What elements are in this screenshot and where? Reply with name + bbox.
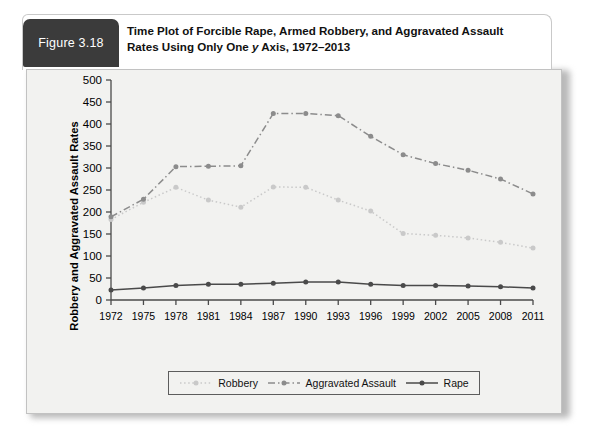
y-tick-label: 100 [83, 250, 102, 262]
x-tick-label: 1996 [359, 310, 383, 322]
legend-item-rape[interactable]: Rape [405, 377, 469, 389]
data-point [466, 168, 471, 173]
data-point [238, 205, 243, 210]
data-point [498, 177, 503, 182]
data-point [271, 111, 276, 116]
data-point [109, 214, 114, 219]
data-point [531, 286, 536, 291]
legend-item-aggravated-assault[interactable]: Aggravated Assault [267, 377, 396, 389]
legend-swatch-solid-icon [405, 378, 439, 388]
legend-item-robbery[interactable]: Robbery [179, 377, 258, 389]
data-point [303, 111, 308, 116]
data-point [401, 283, 406, 288]
y-tick-label: 300 [83, 162, 102, 174]
chart-legend: RobberyAggravated AssaultRape [168, 371, 480, 395]
data-point [141, 197, 146, 202]
data-point [206, 198, 211, 203]
figure-caption-line1: Time Plot of Forcible Rape, Armed Robber… [127, 24, 503, 37]
legend-label: Robbery [218, 377, 258, 389]
data-point [303, 185, 308, 190]
legend-label: Rape [444, 377, 469, 389]
figure-number-tab: Figure 3.18 [23, 19, 119, 67]
data-point [368, 209, 373, 214]
y-tick-label: 450 [83, 96, 102, 108]
x-tick-label: 1984 [229, 310, 253, 322]
y-axis-ticks: 050100150200250300350400450500 [83, 74, 111, 306]
data-point [498, 284, 503, 289]
data-point [368, 134, 373, 139]
x-tick-label: 1981 [197, 310, 221, 322]
y-tick-label: 400 [83, 118, 102, 130]
legend-swatch-dash-dot-icon [267, 378, 301, 388]
figure-caption-line2-post: Axis, 1972–2013 [258, 40, 350, 53]
x-axis-ticks: 1972197519781981198419871990199319961999… [99, 300, 544, 322]
x-tick-label: 2008 [489, 310, 513, 322]
data-point [466, 235, 471, 240]
y-tick-label: 200 [83, 206, 102, 218]
data-point [433, 233, 438, 238]
legend-swatch-dotted-icon [179, 378, 213, 388]
data-point [401, 231, 406, 236]
data-point [433, 161, 438, 166]
data-point [336, 113, 341, 118]
data-point [271, 184, 276, 189]
data-point [498, 240, 503, 245]
figure-card: Figure 3.18 Time Plot of Forcible Rape, … [22, 14, 570, 418]
data-point [173, 164, 178, 169]
x-tick-label: 1987 [262, 310, 286, 322]
data-point [141, 286, 146, 291]
data-point [336, 279, 341, 284]
y-tick-label: 50 [89, 272, 102, 284]
data-point [173, 283, 178, 288]
x-tick-label: 2002 [424, 310, 448, 322]
data-point [238, 163, 243, 168]
y-tick-label: 500 [83, 74, 102, 86]
data-point [531, 191, 536, 196]
data-point [368, 282, 373, 287]
axes-group [111, 80, 533, 300]
series-group [109, 111, 536, 292]
data-point [433, 283, 438, 288]
data-point [531, 246, 536, 251]
x-tick-label: 2011 [522, 310, 545, 322]
chart-canvas: 050100150200250300350400450500 197219751… [27, 70, 563, 415]
data-point [173, 185, 178, 190]
x-tick-label: 2005 [456, 310, 480, 322]
data-point [109, 287, 114, 292]
x-tick-label: 1999 [391, 310, 415, 322]
data-point [238, 282, 243, 287]
data-point [303, 279, 308, 284]
data-point [466, 283, 471, 288]
y-tick-label: 350 [83, 140, 102, 152]
figure-body-panel: Robbery and Aggravated Assault Rates 050… [26, 69, 562, 414]
y-tick-label: 0 [96, 294, 102, 306]
legend-label: Aggravated Assault [306, 377, 396, 389]
y-tick-label: 250 [83, 184, 102, 196]
x-tick-label: 1972 [99, 310, 123, 322]
line-chart: Robbery and Aggravated Assault Rates 050… [27, 70, 563, 415]
data-point [206, 164, 211, 169]
figure-number-label: Figure 3.18 [38, 36, 103, 50]
data-point [271, 281, 276, 286]
x-tick-label: 1990 [294, 310, 318, 322]
x-tick-label: 1978 [164, 310, 188, 322]
data-point [401, 152, 406, 157]
y-axis-title: Robbery and Aggravated Assault Rates [68, 116, 80, 336]
x-tick-label: 1993 [327, 310, 351, 322]
y-tick-label: 150 [83, 228, 102, 240]
x-tick-label: 1975 [132, 310, 156, 322]
data-point [336, 198, 341, 203]
figure-caption-line2-pre: Rates Using Only One [127, 40, 252, 53]
data-point [206, 282, 211, 287]
figure-header: Figure 3.18 Time Plot of Forcible Rape, … [22, 14, 552, 70]
figure-caption: Time Plot of Forcible Rape, Armed Robber… [127, 23, 543, 56]
